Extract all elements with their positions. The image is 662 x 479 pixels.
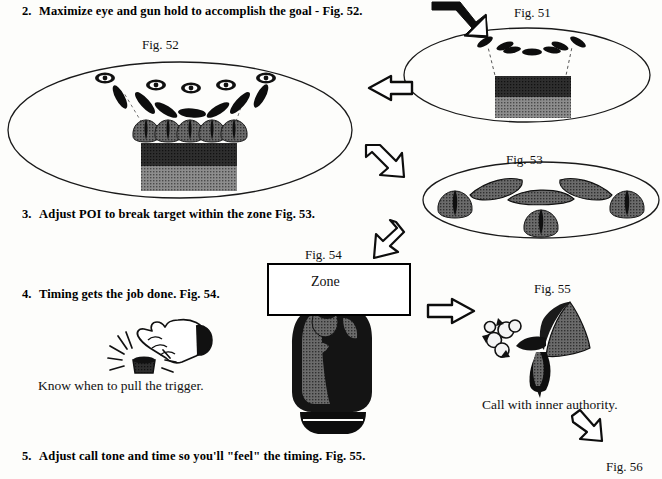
step-2-number: 2. <box>22 4 39 19</box>
fig-53-streaks <box>470 179 612 205</box>
fig-53-label: Fig. 53 <box>506 152 543 168</box>
step-5-text: 5.Adjust call tone and time so you'll "f… <box>22 449 365 464</box>
step-5-body: Adjust call tone and time so you'll "fee… <box>39 449 365 463</box>
fig-56-label: Fig. 56 <box>606 459 643 475</box>
call-caption: Call with inner authority. <box>482 397 618 413</box>
arrow-fig52-to-fig53 <box>366 145 404 177</box>
zone-label: Zone <box>311 274 340 290</box>
fig-52-diagram <box>8 62 352 198</box>
arrow-fig53-to-fig54 <box>374 220 404 258</box>
step-2-text: 2.Maximize eye and gun hold to accomplis… <box>22 4 363 19</box>
step-3-number: 3. <box>22 207 39 222</box>
fig-55-megaphone <box>482 302 590 398</box>
step-4-body: Timing gets the job done. Fig. 54. <box>39 287 220 301</box>
arrow-to-fig56 <box>572 410 602 441</box>
step-4-number: 4. <box>22 287 39 302</box>
fig-54-fist <box>292 307 372 434</box>
page-root: Zone 2.Maximize eye and gun hold to acco… <box>0 0 662 479</box>
step-2-body: Maximize eye and gun hold to accomplish … <box>39 4 363 18</box>
step-5-number: 5. <box>22 449 39 464</box>
fig-53-diagram <box>423 162 659 238</box>
fig-55-label: Fig. 55 <box>534 281 571 297</box>
trigger-caption: Know when to pull the trigger. <box>38 378 204 394</box>
fig-51-label: Fig. 51 <box>514 5 551 21</box>
fig-52-dashes <box>110 82 271 120</box>
fig-54-label: Fig. 54 <box>305 247 342 263</box>
arrow-fig51-to-fig52 <box>369 76 412 100</box>
step-4-text: 4.Timing gets the job done. Fig. 54. <box>22 287 220 302</box>
arrow-into-fig51 <box>432 2 488 38</box>
fig-52-heads <box>133 119 247 142</box>
step-3-text: 3.Adjust POI to break target within the … <box>22 207 315 222</box>
arrow-fig54-to-fig55 <box>428 299 474 323</box>
step-3-body: Adjust POI to break target within the zo… <box>39 207 315 221</box>
fig-51-diagram <box>404 28 650 122</box>
fig-52-label: Fig. 52 <box>142 37 179 53</box>
fig-52-eyes <box>95 73 276 94</box>
trigger-hand-diagram <box>108 320 212 373</box>
